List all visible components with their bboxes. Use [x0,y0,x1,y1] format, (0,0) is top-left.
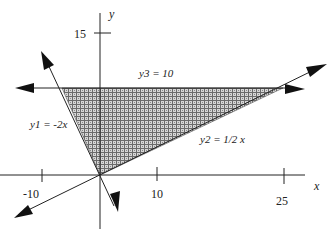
label-y1: y1 = -2x [29,118,67,130]
x-axis-label: x [313,179,320,193]
x-tick-label-10: 10 [151,187,163,201]
y-axis-label: y [108,7,115,21]
label-y2: y2 = 1/2 x [199,133,245,145]
arrow-right-icon [285,84,305,94]
x-tick-label-25: 25 [276,194,288,208]
arrow-up-right-icon [306,64,327,77]
label-y3: y3 = 10 [138,67,174,79]
arrow-down-left-icon [14,205,33,218]
inequality-diagram: y x 15 -10 10 25 y3 = 10 y1 = -2x y2 = 1… [0,0,327,229]
x-tick-label-neg10: -10 [23,187,39,201]
arrow-up-left-icon [41,51,54,70]
y-tick-label-15: 15 [74,27,86,41]
arrow-left-icon [15,83,34,93]
